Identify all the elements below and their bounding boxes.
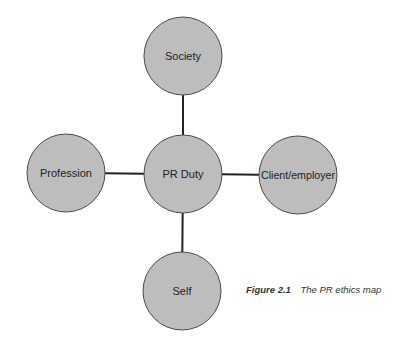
node-self: Self	[143, 252, 221, 330]
figure-number: Figure 2.1	[246, 284, 291, 295]
node-label: Client/employer	[261, 169, 335, 181]
figure-caption: Figure 2.1 The PR ethics map	[246, 284, 381, 295]
node-client-employer: Client/employer	[259, 136, 337, 214]
node-society: Society	[144, 17, 222, 95]
node-label: Profession	[40, 167, 92, 179]
node-label: Society	[165, 50, 202, 62]
figure-title: The PR ethics map	[301, 284, 382, 295]
node-pr-duty: PR Duty	[144, 135, 222, 213]
node-label: PR Duty	[163, 168, 204, 180]
node-label: Self	[173, 285, 193, 297]
node-profession: Profession	[27, 134, 105, 212]
pr-ethics-map-diagram: SocietyPR DutyProfessionClient/employerS…	[0, 0, 407, 352]
